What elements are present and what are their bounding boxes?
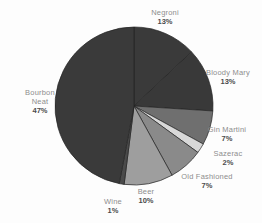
slice-label-old-fashioned: Old Fashioned 7%: [165, 172, 249, 190]
slice-label-sazerac: Sazerac 2%: [198, 149, 258, 167]
slice-name: Gin Martini: [192, 125, 262, 134]
slice-name: Wine: [93, 197, 133, 206]
slice-percent: 2%: [198, 158, 258, 167]
slice-name: Negroni: [135, 8, 195, 17]
slice-percent: 13%: [193, 77, 262, 86]
slice-percent: 7%: [165, 181, 249, 190]
slice-name: Bourbon Neat: [17, 88, 63, 106]
pie-slice-bourbon-neat: [55, 27, 134, 184]
slice-label-bloody-mary: Bloody Mary 13%: [193, 68, 262, 86]
slice-label-negroni: Negroni 13%: [135, 8, 195, 26]
slice-name: Beer: [126, 187, 166, 196]
slice-percent: 7%: [192, 134, 262, 143]
slice-label-bourbon-neat: Bourbon Neat 47%: [17, 88, 63, 115]
slice-label-wine: Wine 1%: [93, 197, 133, 215]
slice-percent: 47%: [17, 106, 63, 115]
slice-percent: 1%: [93, 206, 133, 215]
slice-label-gin-martini: Gin Martini 7%: [192, 125, 262, 143]
slice-name: Bloody Mary: [193, 68, 262, 77]
slice-name: Sazerac: [198, 149, 258, 158]
slice-percent: 13%: [135, 17, 195, 26]
pie-chart-figure: Negroni 13% Bloody Mary 13% Gin Martini …: [0, 0, 262, 223]
slice-name: Old Fashioned: [165, 172, 249, 181]
